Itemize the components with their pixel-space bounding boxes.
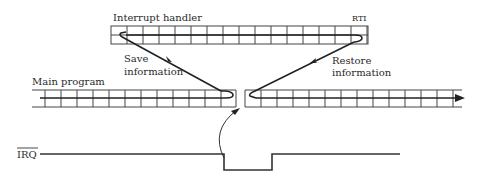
irq-signal-waveform <box>40 154 400 170</box>
restore-label-line1: Restore <box>332 55 371 66</box>
restore-label-line2: information <box>332 67 392 78</box>
irq-trigger-arrow <box>219 110 237 158</box>
handler-flow-line <box>126 35 362 42</box>
main-flow-arrowhead-icon <box>455 94 465 102</box>
interrupt-flow-diagram: Interrupt handler RTI Save information R… <box>0 0 480 181</box>
interrupt-handler-label: Interrupt handler <box>113 12 202 23</box>
save-label-line1: Save <box>124 53 148 64</box>
rti-label: RTI <box>352 14 366 23</box>
irq-label: IRQ <box>17 149 37 160</box>
main-flow-left <box>40 91 233 98</box>
save-arrowhead-icon <box>164 56 172 62</box>
main-program-label: Main program <box>32 76 105 87</box>
save-label-line2: information <box>124 66 184 77</box>
